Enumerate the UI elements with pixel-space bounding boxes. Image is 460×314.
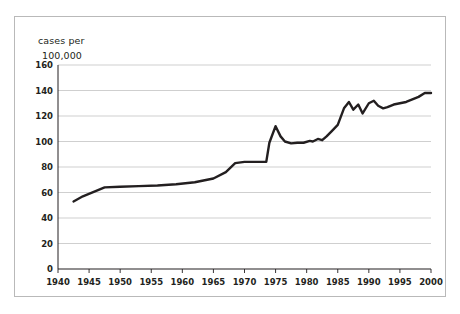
x-axis-tick-label: 1995	[383, 277, 417, 287]
x-axis-tick-label: 1990	[352, 277, 386, 287]
x-axis-tick-label: 1960	[165, 277, 199, 287]
x-axis-tick-label: 1955	[134, 277, 168, 287]
x-axis-tick-label: 1970	[228, 277, 262, 287]
y-axis-tick-label: 100	[27, 137, 53, 147]
gridlines	[58, 65, 431, 269]
x-axis-tick-label: 1980	[290, 277, 324, 287]
x-axis-tick-label: 2000	[414, 277, 448, 287]
x-axis-tick-label: 1975	[259, 277, 293, 287]
y-axis-tick-label: 0	[27, 264, 53, 274]
y-axis-tick-label: 140	[27, 86, 53, 96]
x-axis-tick-label: 1940	[41, 277, 75, 287]
y-axis-tick-label: 120	[27, 111, 53, 121]
y-axis-tick-label: 20	[27, 239, 53, 249]
chart-figure: cases per 100,000 020406080100120140160 …	[14, 16, 446, 297]
data-series-line	[74, 93, 431, 201]
y-axis-tick-label: 60	[27, 188, 53, 198]
x-axis-tick-label: 1965	[196, 277, 230, 287]
x-axis-tick-label: 1950	[103, 277, 137, 287]
y-axis-title-line1: cases per	[38, 35, 85, 46]
line-chart-svg	[58, 65, 431, 269]
x-axis-tick-marks	[58, 269, 431, 273]
x-axis-tick-label: 1985	[321, 277, 355, 287]
y-axis-tick-label: 80	[27, 162, 53, 172]
y-axis-tick-label: 40	[27, 213, 53, 223]
plot-area	[58, 65, 431, 269]
x-axis-tick-label: 1945	[72, 277, 106, 287]
y-axis-tick-label: 160	[27, 60, 53, 70]
